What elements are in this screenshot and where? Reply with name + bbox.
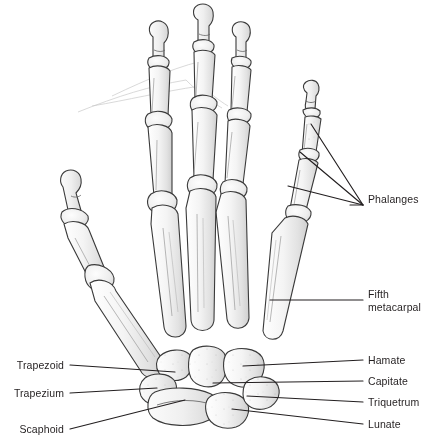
label-phalanges-line1: Phalanges (368, 193, 419, 206)
label-lunate: Lunate (368, 418, 401, 431)
label-fifth-metacarpal: Fifth metacarpal (368, 288, 421, 313)
label-trapezoid: Trapezoid (0, 359, 64, 372)
label-hamate-line1: Hamate (368, 354, 405, 367)
label-phalanges: Phalanges (368, 193, 419, 206)
label-capitate-line1: Capitate (368, 375, 408, 388)
label-hamate: Hamate (368, 354, 405, 367)
label-scaphoid: Scaphoid (0, 423, 64, 436)
label-scaphoid-line1: Scaphoid (0, 423, 64, 436)
label-fifth-metacarpal-line1: Fifth (368, 288, 421, 301)
label-trapezium: Trapezium (0, 387, 64, 400)
label-capitate: Capitate (368, 375, 408, 388)
label-lunate-line1: Lunate (368, 418, 401, 431)
digit-middle-finger (186, 4, 217, 331)
label-triquetrum: Triquetrum (368, 396, 419, 409)
digit-index-finger (145, 21, 186, 337)
label-trapezium-line1: Trapezium (0, 387, 64, 400)
bone-group (61, 4, 363, 429)
carpal-bones (140, 346, 280, 428)
hand-skeleton-illustration (0, 0, 427, 442)
digit-ring-finger (216, 22, 251, 328)
figure-canvas: Phalanges Fifth metacarpal Hamate Capita… (0, 0, 427, 442)
label-triquetrum-line1: Triquetrum (368, 396, 419, 409)
label-fifth-metacarpal-line2: metacarpal (368, 301, 421, 314)
label-trapezoid-line1: Trapezoid (0, 359, 64, 372)
